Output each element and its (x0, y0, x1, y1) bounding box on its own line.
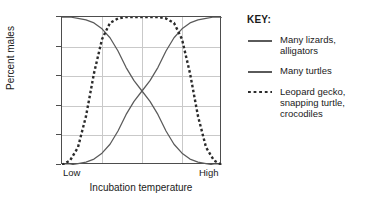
y-axis-tick (56, 164, 61, 165)
y-axis-tick (56, 134, 61, 135)
legend-entries: Many lizards,alligatorsMany turtlesLeopa… (247, 34, 373, 119)
legend-dashed-line-icon (247, 87, 273, 98)
legend-entry[interactable]: Many lizards,alligators (247, 34, 373, 56)
legend-solid-line-icon (247, 35, 273, 46)
legend-solid-line-icon (247, 66, 273, 77)
legend-line-swatch (248, 40, 272, 42)
series-curves (62, 17, 222, 165)
x-axis-high-label: High (199, 167, 219, 178)
y-axis-tick (56, 46, 61, 47)
x-axis-low-label: Low (63, 167, 80, 178)
y-axis-title: Percent males (5, 26, 16, 90)
legend-entry[interactable]: Leopard gecko,snapping turtle,crocodiles (247, 86, 373, 119)
series-line-many-turtles (62, 17, 222, 165)
legend-entry-label: Leopard gecko,snapping turtle,crocodiles (280, 86, 346, 119)
legend-entry[interactable]: Many turtles (247, 65, 373, 77)
legend-title: KEY: (247, 14, 373, 25)
legend-line-swatch (248, 91, 272, 93)
legend-line-swatch (248, 71, 272, 73)
y-axis-tick (56, 16, 61, 17)
y-axis-tick (56, 105, 61, 106)
x-axis-title: Incubation temperature (61, 182, 221, 193)
legend-entry-label: Many turtles (280, 65, 332, 76)
legend-entry-label: Many lizards,alligators (280, 34, 336, 56)
chart-area: Percent males 020406080100 Low High Incu… (0, 0, 236, 217)
figure-root: Percent males 020406080100 Low High Incu… (0, 0, 377, 217)
y-axis-tick (56, 75, 61, 76)
plot-frame (61, 16, 221, 164)
legend: KEY: Many lizards,alligatorsMany turtles… (247, 14, 373, 119)
